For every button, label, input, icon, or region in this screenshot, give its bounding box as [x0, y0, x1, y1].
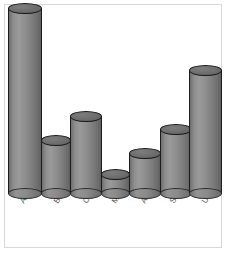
cylinder-top-cap	[101, 169, 130, 180]
cylinder-body	[70, 116, 102, 194]
cylinder-bottom-cap	[70, 188, 102, 199]
cylinder-bottom-cap	[129, 188, 161, 199]
cylinder-top-cap	[189, 65, 222, 76]
bar-mexico	[101, 169, 130, 194]
cylinder-bar-chart: ArgentinaBrazilChileMexicoAustraliaSouth…	[0, 0, 230, 256]
cylinder-bottom-cap	[8, 188, 42, 199]
plot-area: ArgentinaBrazilChileMexicoAustraliaSouth…	[0, 0, 230, 256]
cylinder-top-cap	[70, 111, 102, 122]
bar-chile	[70, 111, 102, 194]
cylinder-body	[189, 70, 222, 194]
cylinder-bottom-cap	[189, 188, 222, 199]
cylinder-body	[41, 140, 71, 194]
bar-argentina	[8, 3, 42, 194]
cylinder-top-cap	[129, 148, 161, 159]
bar-usa	[189, 65, 222, 194]
cylinder-top-cap	[160, 124, 192, 135]
cylinder-bottom-cap	[101, 188, 130, 199]
cylinder-bottom-cap	[160, 188, 192, 199]
cylinder-top-cap	[41, 135, 71, 146]
cylinder-bottom-cap	[41, 188, 71, 199]
bar-south-africa	[160, 124, 192, 194]
cylinder-body	[160, 129, 192, 194]
bar-australia	[129, 148, 161, 194]
cylinder-body	[8, 8, 42, 194]
bar-brazil	[41, 135, 71, 194]
cylinder-top-cap	[8, 3, 42, 14]
